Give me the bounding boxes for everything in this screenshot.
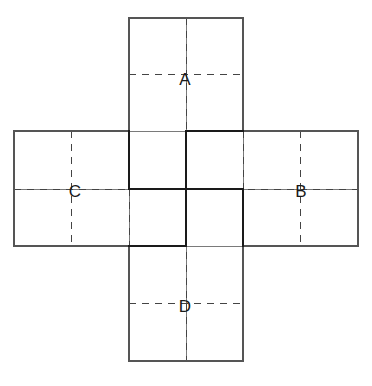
label-a: A <box>179 70 191 89</box>
cube-net-figure: ABCD <box>0 0 372 386</box>
label-c: C <box>69 182 81 201</box>
cube-net-svg: ABCD <box>0 0 372 386</box>
label-b: B <box>295 182 307 201</box>
label-d: D <box>179 297 191 316</box>
